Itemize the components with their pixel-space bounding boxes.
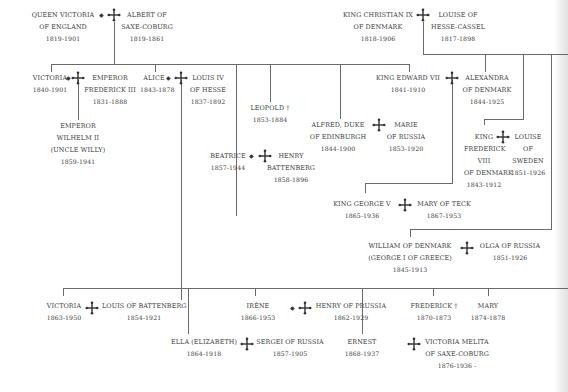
person-name: OF DENMARK bbox=[340, 21, 416, 33]
diamond-icon: ◆ bbox=[249, 152, 254, 160]
connector-line bbox=[270, 64, 271, 102]
person-dates: 1858-1896 bbox=[266, 174, 316, 186]
marriage-cross-icon bbox=[174, 71, 188, 85]
person-name: OF RUSSIA bbox=[386, 131, 426, 143]
person-name: BATTENBERG bbox=[266, 162, 316, 174]
connector-line bbox=[114, 22, 115, 64]
person-irene: IRÈNE 1866-1953 bbox=[238, 300, 278, 324]
diamond-icon: ◆ bbox=[290, 304, 295, 312]
person-name: VICTORIA MELITA bbox=[422, 336, 492, 348]
person-frederick-hesse: FREDERICK † 1870-1873 bbox=[410, 300, 458, 324]
marriage-cross-icon bbox=[398, 198, 412, 212]
person-name: KING EDWARD VII bbox=[370, 72, 446, 84]
person-marie: MARIE OF RUSSIA 1853-1920 bbox=[386, 119, 426, 155]
person-name: ALICE bbox=[140, 72, 168, 84]
person-name: KING bbox=[464, 131, 504, 143]
connector-line bbox=[188, 288, 189, 334]
connector-line bbox=[255, 288, 256, 296]
person-beatrice: BEATRICE 1857-1944 bbox=[208, 150, 248, 174]
person-george-v: KING GEORGE V 1865-1936 bbox=[330, 198, 394, 222]
connector-line bbox=[423, 22, 424, 54]
person-name: ALEXANDRA bbox=[458, 72, 516, 84]
person-sergei-of-russia: SERGEI OF RUSSIA 1857-1905 bbox=[256, 336, 324, 360]
person-name: KING CHRISTIAN IX bbox=[340, 9, 416, 21]
person-name: OF bbox=[508, 143, 548, 155]
person-name: (UNCLE WILLY) bbox=[46, 144, 110, 156]
person-name: HESSE-CASSEL bbox=[428, 21, 488, 33]
connector-line bbox=[236, 64, 237, 216]
person-name: ERNEST bbox=[344, 336, 380, 348]
person-louis-of-battenberg: LOUIS OF BATTENBERG 1854-1921 bbox=[102, 300, 186, 324]
person-dates: 1817-1898 bbox=[428, 33, 488, 45]
marriage-cross-icon bbox=[240, 337, 254, 351]
person-name: OF DENMARK bbox=[464, 167, 504, 179]
person-louise-sweden: LOUISE OF SWEDEN 1851-1926 bbox=[508, 131, 548, 179]
person-dates: 1866-1953 bbox=[238, 312, 278, 324]
connector-line bbox=[155, 64, 156, 72]
person-dates: 1840-1901 bbox=[30, 84, 70, 96]
person-name: WILLIAM OF DENMARK bbox=[364, 240, 456, 252]
person-name: ALBERT OF bbox=[118, 9, 176, 21]
person-dates: 1870-1873 bbox=[410, 312, 458, 324]
connector-line bbox=[410, 229, 411, 237]
connector-line bbox=[409, 64, 410, 72]
connector-line bbox=[78, 80, 79, 120]
person-queen-victoria: QUEEN VICTORIA OF ENGLAND 1819-1901 bbox=[30, 9, 96, 45]
connector-line bbox=[63, 288, 64, 296]
person-frederick-iii: EMPEROR FREDERICK III 1831-1888 bbox=[82, 72, 138, 108]
person-henry-battenberg: HENRY BATTENBERG 1858-1896 bbox=[266, 150, 316, 186]
person-name: FREDERICK bbox=[464, 143, 504, 155]
person-christian-ix: KING CHRISTIAN IX OF DENMARK 1818-1906 bbox=[340, 9, 416, 45]
person-name: LOUISE OF bbox=[428, 9, 488, 21]
diamond-icon: ◆ bbox=[99, 11, 104, 19]
person-name: QUEEN VICTORIA bbox=[30, 9, 96, 21]
person-dates: 1818-1906 bbox=[340, 33, 416, 45]
person-olga-of-russia: OLGA OF RUSSIA 1851-1926 bbox=[478, 240, 542, 264]
page-edge-shadow bbox=[554, 0, 568, 392]
person-name: HENRY bbox=[266, 150, 316, 162]
connector-line bbox=[551, 54, 552, 229]
person-name: LEOPOLD † bbox=[248, 102, 292, 114]
person-name: FREDERICK III bbox=[82, 84, 138, 96]
person-name: KING GEORGE V bbox=[330, 198, 394, 210]
person-frederick-viii: KING FREDERICK VIII OF DENMARK 1843-1912 bbox=[464, 131, 504, 191]
person-dates: 1851-1926 bbox=[508, 167, 548, 179]
connector-line bbox=[51, 64, 287, 65]
person-name: WILHELM II bbox=[46, 132, 110, 144]
person-dates: 1819-1901 bbox=[30, 33, 96, 45]
person-dates: 1865-1936 bbox=[330, 210, 394, 222]
person-name: LOUIS IV bbox=[188, 72, 228, 84]
person-alice: ALICE 1843-1878 bbox=[140, 72, 168, 96]
connector-line bbox=[433, 288, 434, 296]
person-mary-of-teck: MARY OF TECK 1867-1953 bbox=[414, 198, 474, 222]
person-name: OF ENGLAND bbox=[30, 21, 96, 33]
person-name: BEATRICE bbox=[208, 150, 248, 162]
connector-line bbox=[452, 80, 453, 183]
person-ella: ELLA (ELIZABETH) 1864-1918 bbox=[170, 336, 238, 360]
person-dates: 1864-1918 bbox=[170, 348, 238, 360]
marriage-cross-icon bbox=[372, 118, 386, 132]
person-name: OF EDINBURGH bbox=[306, 131, 370, 143]
person-henry-of-prussia: HENRY OF PRUSSIA 1862-1929 bbox=[314, 300, 388, 324]
person-name: LOUISE bbox=[508, 131, 548, 143]
person-name: OF HESSE bbox=[188, 84, 228, 96]
person-albert: ALBERT OF SAXE-COBURG 1819-1861 bbox=[118, 9, 176, 45]
person-name: HENRY OF PRUSSIA bbox=[314, 300, 388, 312]
marriage-cross-icon bbox=[445, 71, 459, 85]
person-name: OLGA OF RUSSIA bbox=[478, 240, 542, 252]
person-name: VICTORIA bbox=[30, 72, 70, 84]
connector-line bbox=[340, 64, 341, 119]
person-dates: 1844-1925 bbox=[458, 96, 516, 108]
connector-line bbox=[365, 183, 366, 193]
person-name: ELLA (ELIZABETH) bbox=[170, 336, 238, 348]
person-name: OF SAXE-COBURG bbox=[422, 348, 492, 360]
person-dates: 1843-1878 bbox=[140, 84, 168, 96]
person-name: VICTORIA bbox=[44, 300, 84, 312]
person-name: VIII bbox=[464, 155, 504, 167]
person-louise-hesse-cassel: LOUISE OF HESSE-CASSEL 1817-1898 bbox=[428, 9, 488, 45]
person-dates: 1876-1936 - bbox=[422, 360, 492, 372]
person-name: EMPEROR bbox=[46, 120, 110, 132]
person-dates: 1845-1913 bbox=[364, 264, 456, 276]
person-name: MARY OF TECK bbox=[414, 198, 474, 210]
person-name: ALFRED, DUKE bbox=[306, 119, 370, 131]
